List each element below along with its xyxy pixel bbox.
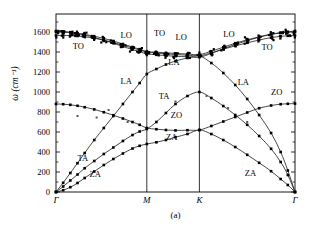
data-marker [103,111,106,114]
data-marker [234,116,237,119]
data-marker [124,44,126,46]
data-marker [83,32,85,34]
data-marker [122,140,125,143]
data-marker [279,35,281,37]
data-marker [189,57,191,59]
data-marker [84,36,86,38]
figure-caption: (a) [156,210,196,220]
data-marker [105,41,107,43]
data-marker [120,43,122,45]
data-marker [270,31,272,33]
y-tick-label: 1200 [24,67,50,77]
data-marker [83,167,86,170]
data-marker [69,36,71,38]
data-marker [294,36,296,38]
data-marker [223,49,225,51]
data-marker [122,103,125,106]
data-marker [112,158,115,161]
data-marker [247,41,249,43]
data-marker [83,106,86,109]
data-marker [198,129,201,132]
data-marker [60,30,62,32]
data-marker [140,49,142,51]
data-marker [146,127,149,130]
data-marker [258,162,261,165]
data-marker [114,42,116,44]
data-marker [234,84,237,87]
data-marker [93,160,96,163]
data-marker [199,55,201,57]
data-marker [211,54,213,56]
data-marker [75,33,77,35]
data-marker [186,129,189,132]
data-marker [165,63,168,66]
data-marker [155,128,158,131]
data-marker [222,120,225,123]
data-marker [69,104,72,107]
branch-label: ZO [171,110,182,120]
data-marker [71,31,73,33]
data-marker [247,39,249,41]
data-marker [76,31,78,33]
data-marker [138,124,141,127]
x-tick-label: Γ [286,195,304,205]
branch-label: TA [78,153,89,163]
y-tick-label: 1600 [24,27,50,37]
data-marker [165,129,168,132]
data-marker [270,132,273,135]
data-marker [210,125,213,128]
data-marker [197,54,199,56]
data-marker [233,43,235,45]
data-marker [63,32,65,34]
data-marker [127,121,129,123]
data-marker [222,105,225,108]
data-marker [110,39,112,41]
data-marker [93,108,96,111]
data-marker [175,101,177,103]
data-marker [55,36,57,38]
branch-label: ZO [271,87,282,97]
data-marker [167,53,169,55]
data-marker [222,139,225,142]
data-marker [186,95,189,98]
data-marker [131,121,134,124]
data-marker [285,29,287,31]
data-marker [294,102,297,105]
data-marker [112,146,115,149]
data-marker [174,52,176,54]
data-marker [103,127,106,130]
data-marker [78,34,80,36]
data-marker [83,177,86,180]
x-tick-label: K [190,195,208,205]
data-marker [155,121,158,124]
data-marker [164,54,166,56]
data-marker [293,31,295,33]
data-marker [287,103,290,106]
data-marker [210,50,212,52]
data-marker [61,35,63,37]
data-marker [103,164,106,167]
data-marker [110,42,112,44]
data-marker [138,82,141,85]
data-marker [76,173,79,176]
data-marker [69,186,72,189]
data-marker [55,191,58,194]
y-tick-label: 400 [24,147,50,157]
data-marker [133,47,135,49]
data-marker [210,62,213,65]
data-marker [258,107,261,110]
data-marker [236,42,238,44]
branch-label: LA [168,57,179,67]
data-marker [227,107,229,109]
data-marker [57,32,59,34]
data-marker [69,172,72,175]
data-marker [112,115,115,118]
data-marker [153,53,155,55]
data-marker [62,103,65,106]
y-tick-label: 800 [24,107,50,117]
data-marker [92,37,94,39]
data-marker [76,105,79,108]
data-marker [165,112,168,115]
data-marker [62,189,65,192]
data-marker [258,36,260,38]
